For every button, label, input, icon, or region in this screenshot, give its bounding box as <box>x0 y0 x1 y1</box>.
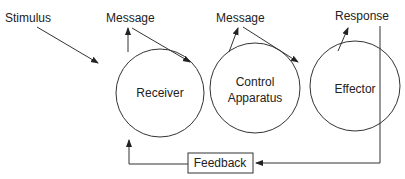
control-label-line1: Control <box>236 75 275 89</box>
feedback-to-receiver-line <box>129 140 188 164</box>
feedback-label: Feedback <box>194 156 248 170</box>
stimulus-arrow <box>37 27 98 63</box>
effector-to-response-arrow <box>338 28 348 51</box>
control-system-diagram: Stimulus Message Message Response Receiv… <box>0 0 405 179</box>
message2-to-effector-arrow <box>243 27 298 62</box>
stimulus-label: Stimulus <box>5 11 51 25</box>
effector-label: Effector <box>334 82 375 96</box>
message-label-1: Message <box>106 11 155 25</box>
response-label: Response <box>335 9 389 23</box>
message1-to-control-arrow <box>132 28 190 62</box>
message-label-2: Message <box>216 11 265 25</box>
receiver-label: Receiver <box>136 86 183 100</box>
control-label-line2: Apparatus <box>228 91 283 105</box>
